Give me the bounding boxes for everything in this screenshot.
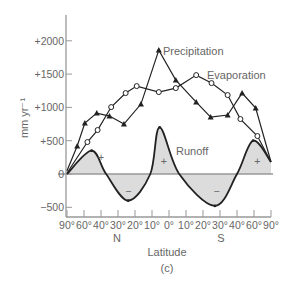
dot-marker-icon	[252, 139, 255, 142]
circle-marker-icon	[238, 117, 243, 122]
circle-marker-icon	[225, 93, 230, 98]
chart-caption: (c)	[161, 262, 174, 274]
axes: +2000+1500+1000+5000−50090°60°40°30°20°1…	[35, 15, 279, 231]
x-tick-label: 20°	[127, 219, 143, 231]
x-tick-label: 30°	[212, 219, 228, 231]
hemisphere-south-label: S	[217, 232, 224, 244]
triangle-marker-icon	[138, 101, 144, 107]
circle-marker-icon	[109, 105, 114, 110]
circle-marker-icon	[194, 73, 199, 78]
circle-marker-icon	[156, 90, 161, 95]
triangle-marker-icon	[94, 110, 100, 116]
dot-marker-icon	[127, 199, 130, 202]
runoff-label: Runoff	[176, 145, 209, 157]
x-tick-label: 90°	[59, 219, 75, 231]
triangle-marker-icon	[74, 143, 80, 149]
runoff-sign-label: +	[161, 155, 167, 167]
y-tick-label: −500	[40, 201, 64, 213]
dot-marker-icon	[214, 205, 217, 208]
x-tick-label: 10°	[144, 219, 160, 231]
evaporation-label: Evaporation	[207, 69, 266, 81]
x-axis-title: Latitude	[147, 246, 186, 258]
triangle-marker-icon	[156, 47, 162, 53]
circle-marker-icon	[255, 134, 260, 139]
triangle-marker-icon	[239, 90, 245, 96]
x-tick-label: 30°	[110, 219, 126, 231]
x-tick-label: 90°	[263, 219, 279, 231]
x-tick-label: 20°	[195, 219, 211, 231]
runoff-sign-label: +	[254, 155, 260, 167]
x-tick-label: 10°	[178, 219, 194, 231]
circle-marker-icon	[209, 81, 214, 86]
runoff-sign-label: +	[98, 151, 104, 163]
triangle-marker-icon	[173, 77, 179, 83]
y-axis-title: mm yr⁻¹	[18, 98, 30, 139]
water-balance-chart: +2000+1500+1000+5000−50090°60°40°30°20°1…	[0, 0, 297, 291]
x-tick-label: 60°	[246, 219, 262, 231]
runoff-sign-label: −	[125, 185, 131, 197]
y-tick-label: +2000	[35, 35, 65, 47]
circle-marker-icon	[134, 84, 139, 89]
x-tick-label: 40°	[229, 219, 245, 231]
circle-marker-icon	[95, 128, 100, 133]
circle-marker-icon	[85, 140, 90, 145]
x-tick-label: 40°	[93, 219, 109, 231]
x-tick-label: 0°	[164, 219, 174, 231]
runoff-sign-label: −	[214, 185, 220, 197]
y-tick-label: +1500	[35, 68, 65, 80]
dot-marker-icon	[90, 149, 93, 152]
dot-marker-icon	[158, 126, 161, 129]
y-tick-label: +500	[40, 135, 64, 147]
y-tick-label: 0	[58, 168, 64, 180]
hemisphere-north-label: N	[113, 232, 121, 244]
precipitation-label: Precipitation	[163, 45, 224, 57]
circle-marker-icon	[123, 91, 128, 96]
x-tick-label: 60°	[76, 219, 92, 231]
y-tick-label: +1000	[35, 101, 65, 113]
circle-marker-icon	[173, 86, 178, 91]
